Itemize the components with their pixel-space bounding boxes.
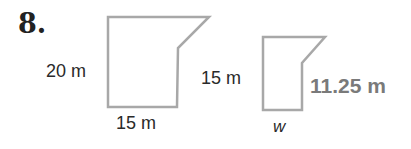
large-figure-height-label: 20 m xyxy=(46,62,86,80)
small-figure-height-label: 15 m xyxy=(201,69,241,87)
large-figure-base-label: 15 m xyxy=(116,114,156,132)
small-figure-right-side-label: 11.25 m xyxy=(310,75,386,96)
small-figure-base-variable: w xyxy=(273,118,285,135)
large-figure-outline xyxy=(108,17,209,107)
